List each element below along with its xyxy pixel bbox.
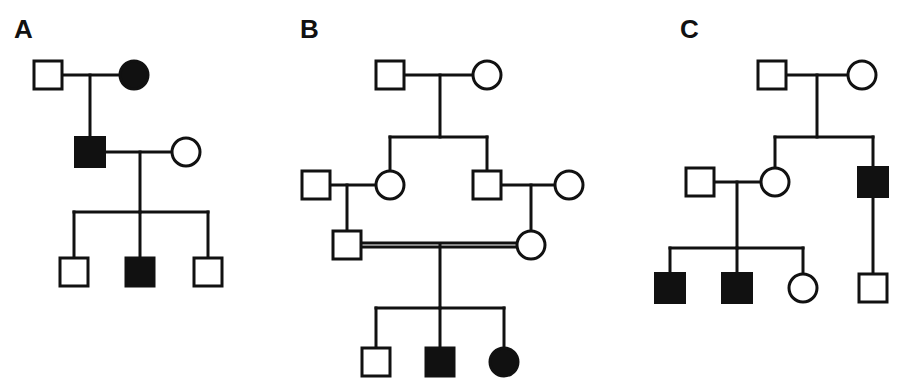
individual-b-iv-2-male-affected[interactable] bbox=[426, 348, 454, 376]
individual-c-iii-4-male-unaffected[interactable] bbox=[859, 274, 887, 302]
individual-a-iii-2-male-affected[interactable] bbox=[126, 258, 154, 286]
individual-c-iii-2-male-affected[interactable] bbox=[723, 274, 752, 303]
individual-a-iii-1-male-unaffected[interactable] bbox=[60, 258, 88, 286]
individual-c-iii-1-male-affected[interactable] bbox=[656, 274, 685, 303]
individual-b-ii-3-male-unaffected[interactable] bbox=[473, 171, 501, 199]
individual-a-iii-3-male-unaffected[interactable] bbox=[194, 258, 222, 286]
individual-b-i-1-male-unaffected[interactable] bbox=[376, 61, 404, 89]
individual-b-ii-4-female-unaffected[interactable] bbox=[555, 171, 583, 199]
individual-b-ii-2-female-unaffected[interactable] bbox=[376, 171, 404, 199]
individual-c-i-2-female-unaffected[interactable] bbox=[848, 61, 876, 89]
individual-b-iii-2-female-unaffected[interactable] bbox=[517, 231, 545, 259]
pedigree-figure: A B C bbox=[0, 0, 905, 391]
individual-b-iv-3-female-affected[interactable] bbox=[490, 348, 518, 376]
individual-c-iii-3-female-unaffected[interactable] bbox=[789, 274, 817, 302]
panel-label-b: B bbox=[300, 14, 319, 44]
individual-b-ii-1-male-unaffected[interactable] bbox=[302, 171, 330, 199]
individual-a-ii-2-female-unaffected[interactable] bbox=[172, 138, 200, 166]
individual-c-ii-3-male-affected[interactable] bbox=[859, 168, 888, 197]
individual-b-i-2-female-unaffected[interactable] bbox=[473, 61, 501, 89]
individual-c-ii-2-female-unaffected[interactable] bbox=[761, 168, 789, 196]
individual-b-iv-1-male-unaffected[interactable] bbox=[362, 348, 390, 376]
individual-a-i-1-male-unaffected[interactable] bbox=[34, 61, 62, 89]
individual-c-i-1-male-unaffected[interactable] bbox=[758, 61, 786, 89]
individual-a-i-2-female-affected[interactable] bbox=[120, 61, 148, 89]
panel-label-a: A bbox=[14, 14, 33, 44]
panel-label-c: C bbox=[680, 14, 699, 44]
individual-c-ii-1-male-unaffected[interactable] bbox=[686, 168, 714, 196]
individual-b-iii-1-male-unaffected[interactable] bbox=[333, 231, 361, 259]
individual-a-ii-1-male-affected[interactable] bbox=[76, 138, 105, 167]
